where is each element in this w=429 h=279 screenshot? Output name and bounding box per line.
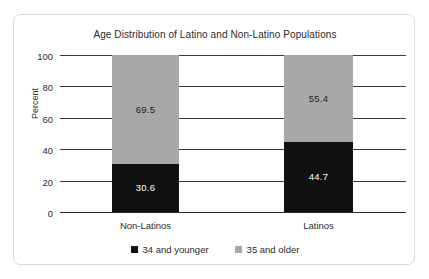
bar-segment-non-latinos-older[interactable]: 69.5 — [112, 55, 179, 164]
y-tick-label-0: 0 — [48, 208, 53, 219]
plot-area: 100 80 60 40 20 0 69.5 30.6 Non-Latinos — [60, 55, 406, 212]
y-tick-label-40: 40 — [42, 145, 53, 156]
y-tick-label-60: 60 — [42, 113, 53, 124]
chart-legend: 34 and younger 35 and older — [14, 244, 416, 255]
chart-figure: Age Distribution of Latino and Non-Latin… — [13, 14, 415, 265]
y-tick-label-100: 100 — [37, 51, 53, 62]
y-tick-label-20: 20 — [42, 176, 53, 187]
bar-segment-non-latinos-younger[interactable]: 30.6 — [112, 164, 179, 212]
chart-title: Age Distribution of Latino and Non-Latin… — [14, 29, 416, 40]
legend-swatch-icon-older — [235, 246, 242, 253]
x-tick-label-latinos: Latinos — [303, 220, 334, 231]
bar-segment-latinos-younger[interactable]: 44.7 — [284, 142, 353, 212]
bar-group-latinos[interactable]: 55.4 44.7 Latinos — [284, 55, 353, 212]
bar-group-non-latinos[interactable]: 69.5 30.6 Non-Latinos — [112, 55, 179, 212]
bar-value-latinos-older: 55.4 — [309, 93, 328, 104]
legend-item-35-and-older[interactable]: 35 and older — [235, 244, 300, 255]
y-axis-title: Percent — [30, 88, 40, 119]
y-tick-label-80: 80 — [42, 82, 53, 93]
x-tick-label-non-latinos: Non-Latinos — [120, 220, 171, 231]
gridline-0-baseline: 0 — [60, 212, 406, 213]
bar-segment-latinos-older[interactable]: 55.4 — [284, 55, 353, 142]
legend-label-younger: 34 and younger — [143, 244, 209, 255]
legend-label-older: 35 and older — [247, 244, 300, 255]
legend-swatch-icon-younger — [131, 246, 138, 253]
legend-item-34-and-younger[interactable]: 34 and younger — [131, 244, 209, 255]
bar-value-latinos-younger: 44.7 — [309, 171, 328, 182]
bar-value-non-latinos-younger: 30.6 — [136, 182, 155, 193]
bar-value-non-latinos-older: 69.5 — [136, 104, 155, 115]
